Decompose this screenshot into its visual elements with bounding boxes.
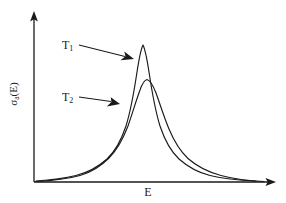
chart-canvas xyxy=(0,0,286,203)
t1-annotation-arrow xyxy=(79,45,134,60)
y-axis-label-sigma: σ xyxy=(7,100,19,106)
y-axis xyxy=(30,11,38,182)
t2-annotation-arrow xyxy=(79,97,120,107)
series-label-t1-subscript: 1 xyxy=(69,44,73,53)
x-axis-label: E xyxy=(144,186,151,198)
t1-arrow-shaft xyxy=(79,45,125,57)
series-label-t2: T2 xyxy=(62,91,73,105)
curve-t1 xyxy=(36,45,256,181)
t2-arrow-shaft xyxy=(79,97,111,102)
series-label-t1: T1 xyxy=(62,39,73,53)
y-axis-label-suffix: (E) xyxy=(7,82,19,96)
t2-arrow-head xyxy=(107,97,120,106)
y-axis-label-subscript: a xyxy=(12,96,21,99)
absorption-cross-section-figure: T1 T2 E σa(E) xyxy=(0,0,286,203)
y-axis-label: σa(E) xyxy=(8,82,20,105)
series-label-t2-subscript: 2 xyxy=(69,96,73,105)
